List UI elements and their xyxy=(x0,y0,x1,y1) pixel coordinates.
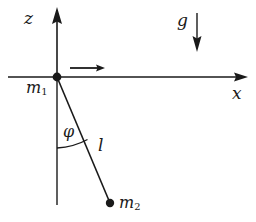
x-axis-label: x xyxy=(232,85,242,102)
z-axis-arrowhead xyxy=(52,7,62,24)
figure-canvas xyxy=(0,0,256,222)
support-mass-label-subscript: 1 xyxy=(41,86,47,97)
support-mass-label-base: m xyxy=(26,78,41,97)
z-axis-label: z xyxy=(24,10,33,27)
rod-length-label: l xyxy=(98,137,103,154)
support-mass-dot xyxy=(53,73,62,82)
bob-mass-label-subscript: 2 xyxy=(134,201,140,212)
support-mass-label: m1 xyxy=(26,80,47,97)
bob-mass-label: m2 xyxy=(119,195,140,212)
bob-mass-dot xyxy=(106,199,114,207)
gravity-label: g xyxy=(177,12,188,29)
angle-phi-label: φ xyxy=(63,124,74,140)
pendulum-figure: z x g m1 m2 φ l xyxy=(0,0,256,222)
bob-mass-label-base: m xyxy=(119,193,134,212)
x-axis-arrowhead xyxy=(234,73,248,82)
